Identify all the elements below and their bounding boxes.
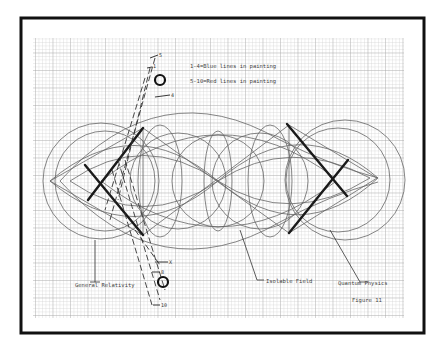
technical-drawing: 1-4=Blue lines in painting 5-10=Red line… (0, 0, 444, 352)
marker-4: 4 (171, 92, 174, 98)
figure-canvas: 1-4=Blue lines in painting 5-10=Red line… (0, 0, 444, 352)
label-quantum-physics: Quantum Physics (338, 280, 388, 287)
label-figure-number: Figure 11 (352, 297, 382, 304)
marker-1: 1 (153, 63, 156, 69)
legend-line-2: 5-10=Red lines in painting (190, 78, 276, 85)
label-isolable-field: Isolable Field (266, 278, 312, 284)
marker-8: 8 (161, 269, 164, 275)
marker-5: 5 (159, 52, 162, 58)
marker-x: X (169, 259, 172, 265)
marker-10: 10 (161, 302, 167, 308)
label-general-relativity: General Relativity (75, 282, 135, 289)
legend-line-1: 1-4=Blue lines in painting (190, 63, 276, 70)
